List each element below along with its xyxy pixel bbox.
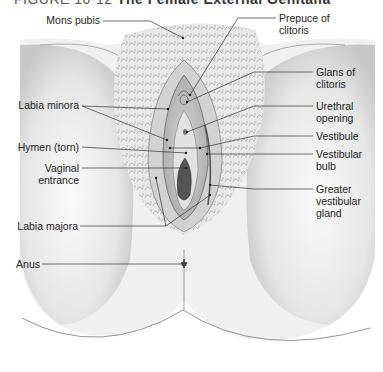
label-anus: Anus (0, 258, 40, 270)
label-prepuce-line1: Prepuce of (279, 12, 330, 24)
label-vaginal-entrance-line2: entrance (0, 174, 79, 186)
label-mons-pubis: Mons pubis (10, 14, 100, 26)
label-urethral-line1: Urethral (316, 100, 353, 112)
label-labia-majora: Labia majora (0, 220, 78, 232)
label-greater-vestibular-gland-line2: vestibular (316, 195, 361, 207)
anatomy-diagram: FIGURE 10-12 The Female External Genital… (0, 0, 383, 372)
label-greater-vestibular-gland-line3: gland (316, 207, 342, 219)
label-hymen: Hymen (torn) (0, 141, 79, 153)
label-vestibular-bulb-line2: bulb (316, 160, 336, 172)
label-greater-vestibular-gland-line1: Greater (316, 183, 352, 195)
glans-shape (180, 95, 188, 105)
label-vestibule: Vestibule (316, 130, 359, 142)
label-urethral-line2: opening (316, 112, 353, 124)
label-glans-line1: Glans of (316, 66, 355, 78)
label-glans-line2: clitoris (316, 78, 346, 90)
label-prepuce-line2: clitoris (279, 24, 309, 36)
label-labia-minora: Labia minora (0, 99, 79, 111)
label-vaginal-entrance-line1: Vaginal (0, 162, 79, 174)
label-vestibular-bulb-line1: Vestibular (316, 148, 362, 160)
